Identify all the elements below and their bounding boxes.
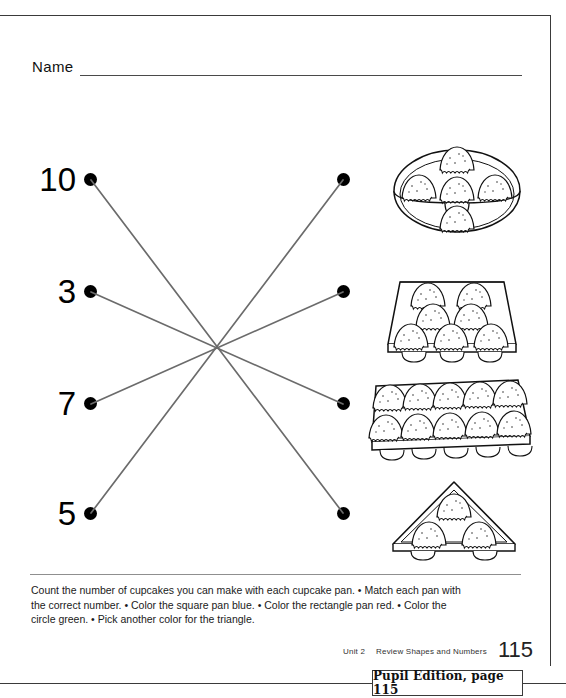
footer-section-title: Review Shapes and Numbers xyxy=(376,647,487,656)
instructions-divider xyxy=(30,574,521,575)
pan-circle xyxy=(383,132,531,250)
pan-square xyxy=(376,270,528,370)
instructions-text: Count the number of cupcakes you can mak… xyxy=(31,583,461,627)
page-footer: Unit 2 Review Shapes and Numbers 115 xyxy=(343,641,553,663)
footer-page-number: 115 xyxy=(498,637,533,663)
footer-unit: Unit 2 xyxy=(343,647,365,656)
pupil-edition-badge: Pupil Edition, page 115 xyxy=(372,670,523,696)
pan-triangle xyxy=(383,474,525,566)
pan-rectangle xyxy=(368,370,536,472)
worksheet-page: Name 10 3 7 5 xyxy=(0,0,566,698)
pupil-edition-label: Pupil Edition, page 115 xyxy=(373,669,522,697)
